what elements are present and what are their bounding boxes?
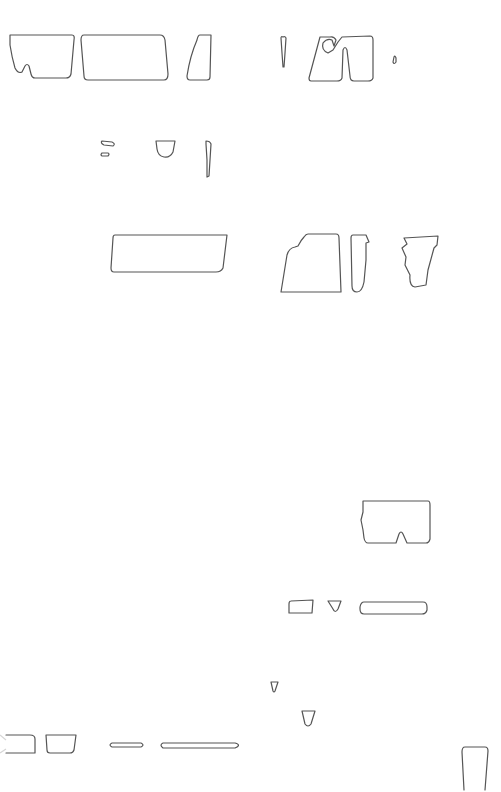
outline-shape-16 — [289, 600, 313, 613]
outline-shape-18 — [360, 602, 427, 614]
shape-layer — [6, 35, 488, 790]
outline-shape-8 — [101, 153, 109, 156]
outline-shape-25 — [462, 747, 488, 790]
outline-shape-1 — [10, 35, 74, 78]
outline-shape-22 — [46, 735, 76, 753]
outline-shape-3 — [187, 35, 211, 80]
outline-shape-19 — [271, 682, 278, 692]
outline-shape-4 — [281, 37, 286, 67]
outline-shape-21 — [6, 735, 35, 753]
outline-shape-15 — [361, 501, 430, 543]
outline-shapes-canvas — [0, 0, 501, 792]
outline-shape-24 — [161, 743, 239, 748]
outline-shape-10 — [206, 141, 211, 177]
outline-shape-23 — [110, 743, 143, 747]
outline-shape-14 — [402, 236, 438, 287]
outline-shape-2 — [81, 35, 168, 80]
outline-shape-17 — [328, 601, 341, 612]
outline-shape-9 — [156, 141, 175, 157]
outline-shape-13 — [351, 235, 369, 292]
outline-shape-7 — [101, 141, 114, 146]
outline-shape-20 — [302, 711, 315, 726]
outline-shape-5 — [309, 36, 373, 81]
outline-shape-12 — [281, 234, 341, 292]
outline-shape-11 — [111, 235, 227, 272]
faded-edge-mark — [0, 735, 6, 753]
outline-shape-6 — [393, 56, 396, 63]
